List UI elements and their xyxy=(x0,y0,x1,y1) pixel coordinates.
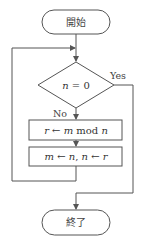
process-swap: m ← n, n ← r xyxy=(29,147,122,166)
decision-diamond: n = 0 xyxy=(38,62,114,108)
decision-label: n = 0 xyxy=(62,80,90,91)
start-terminal: 開始 xyxy=(42,10,110,34)
process-mod: r ← m mod n xyxy=(29,120,122,140)
process-mod-label: r ← m mod n xyxy=(44,125,108,136)
process-swap-label: m ← n, n ← r xyxy=(44,151,108,162)
end-terminal: 終了 xyxy=(42,210,110,235)
end-label: 終了 xyxy=(66,216,86,228)
yes-label: Yes xyxy=(109,70,126,81)
start-label: 開始 xyxy=(66,16,86,28)
no-label: No xyxy=(53,108,67,119)
flowchart-canvas: 開始 n = 0 Yes No r ← m mod n m ← n, n ← r… xyxy=(0,0,143,245)
